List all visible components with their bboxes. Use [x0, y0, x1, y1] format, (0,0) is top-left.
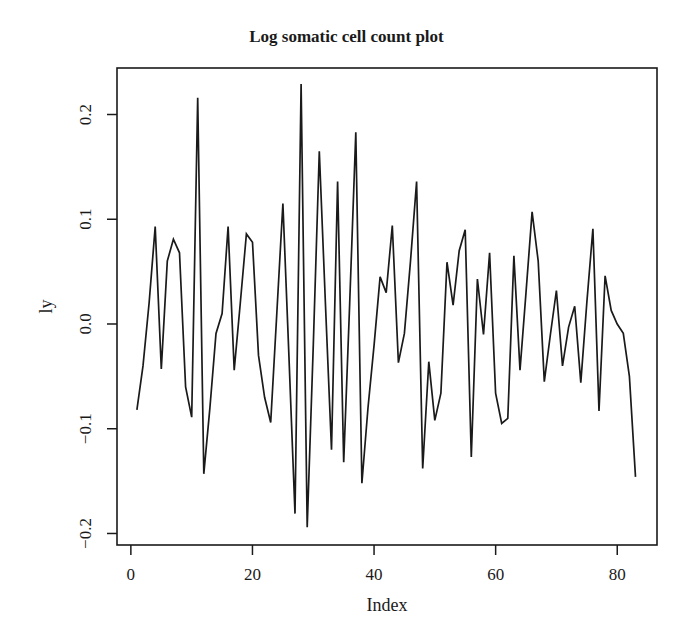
x-tick-label: 0	[127, 565, 136, 584]
x-axis-label: Index	[367, 595, 408, 615]
y-tick-label: 0.2	[76, 104, 95, 125]
y-tick-label: −0.1	[76, 413, 95, 444]
y-tick-label: 0.0	[76, 313, 95, 334]
x-axis: 020406080	[127, 545, 626, 584]
x-tick-label: 60	[487, 565, 504, 584]
x-tick-label: 20	[244, 565, 261, 584]
y-axis-label: ly	[36, 299, 56, 313]
y-axis: −0.2−0.10.00.10.2	[76, 104, 117, 549]
x-tick-label: 80	[609, 565, 626, 584]
data-series-line	[137, 84, 636, 527]
line-chart: 020406080 −0.2−0.10.00.10.2 Index ly	[0, 0, 693, 643]
y-tick-label: −0.2	[76, 518, 95, 549]
y-tick-label: 0.1	[76, 209, 95, 230]
x-tick-label: 40	[366, 565, 383, 584]
